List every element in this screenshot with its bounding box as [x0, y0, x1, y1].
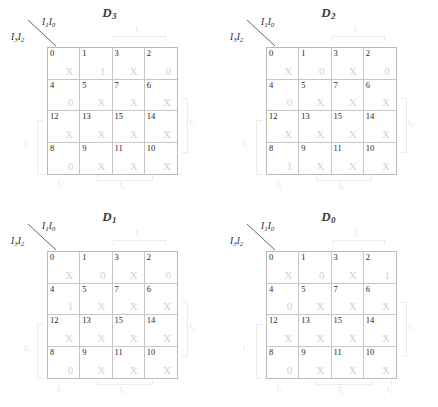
cell-value: X — [382, 96, 390, 108]
cell-value: X — [130, 300, 138, 312]
kmap-cell[interactable]: 80 — [48, 143, 80, 175]
kmap-cell[interactable]: 80 — [267, 347, 299, 379]
kmap-cell[interactable]: 13X — [80, 111, 112, 143]
cell-value: 0 — [68, 96, 74, 108]
kmap-cell[interactable]: 3X — [113, 252, 145, 284]
kmap-cell[interactable]: 10X — [145, 143, 177, 175]
kmap-cell[interactable]: 5X — [80, 284, 112, 316]
kmap-cell[interactable]: 21 — [364, 252, 396, 284]
group-bracket-bottom-right: I₁ — [381, 378, 405, 398]
cell-value: X — [317, 128, 325, 140]
kmap-cell[interactable]: 14X — [364, 111, 396, 143]
kmap-cell[interactable]: 40 — [267, 80, 299, 112]
kmap-cell[interactable]: 5X — [80, 80, 112, 112]
kmap-cell[interactable]: 11X — [113, 143, 145, 175]
cell-index: 3 — [334, 48, 338, 58]
cell-value: X — [382, 128, 390, 140]
kmap-cell[interactable]: 9X — [80, 143, 112, 175]
kmap-cell[interactable]: 10 — [299, 252, 331, 284]
axis-label-top: I1I0 — [42, 221, 55, 233]
cell-index: 4 — [50, 80, 54, 90]
kmap-cell[interactable]: 11 — [80, 48, 112, 80]
kmap-cell[interactable]: 12X — [48, 315, 80, 347]
karnaugh-map-d3: D3I1I0I3I2I₁I₃I₃I₀I₀0X113X20405X7X6X12X1… — [0, 0, 219, 203]
cell-value: 0 — [287, 300, 293, 312]
group-label-bottom: I₀ — [338, 385, 343, 394]
cell-value: X — [317, 332, 325, 344]
kmap-cell[interactable]: 5X — [299, 284, 331, 316]
kmap-cell[interactable]: 14X — [364, 315, 396, 347]
group-bracket-bottom: I₀ — [97, 174, 157, 194]
kmap-cell[interactable]: 7X — [113, 284, 145, 316]
cell-index: 4 — [50, 284, 54, 294]
cell-index: 14 — [366, 315, 375, 325]
cell-index: 9 — [301, 143, 305, 153]
group-label-bottom: I₀ — [338, 181, 343, 190]
cell-value: 1 — [287, 160, 293, 172]
kmap-cell[interactable]: 9X — [299, 347, 331, 379]
kmap-cell[interactable]: 20 — [145, 252, 177, 284]
kmap-cell[interactable]: 6X — [145, 80, 177, 112]
kmap-cell[interactable]: 9X — [80, 347, 112, 379]
cell-value: 0 — [319, 65, 325, 77]
kmap-cell[interactable]: 6X — [364, 80, 396, 112]
kmap-cell[interactable]: 10X — [364, 347, 396, 379]
kmap-cell[interactable]: 3X — [113, 48, 145, 80]
kmap-cell[interactable]: 81 — [267, 143, 299, 175]
cell-value: 0 — [68, 364, 74, 376]
axis-label-top: I1I0 — [42, 17, 55, 29]
kmap-cell[interactable]: 10X — [145, 347, 177, 379]
kmap-cell[interactable]: 15X — [113, 111, 145, 143]
kmap-cell[interactable]: 11X — [332, 143, 364, 175]
kmap-cell[interactable]: 11X — [332, 347, 364, 379]
axis-label-bottom: I3I2 — [230, 32, 243, 44]
kmap-cell[interactable]: 15X — [332, 315, 364, 347]
kmap-cell[interactable]: 0X — [48, 48, 80, 80]
kmap-cell[interactable]: 7X — [113, 80, 145, 112]
kmap-cell[interactable]: 12X — [48, 111, 80, 143]
kmap-cell[interactable]: 12X — [267, 315, 299, 347]
kmap-cell[interactable]: 10 — [80, 252, 112, 284]
cell-index: 10 — [366, 143, 375, 153]
cell-index: 14 — [147, 315, 156, 325]
kmap-cell[interactable]: 13X — [299, 315, 331, 347]
group-label-left: I₃ — [243, 344, 248, 353]
kmap-cell[interactable]: 5X — [299, 80, 331, 112]
kmap-cell[interactable]: 6X — [145, 284, 177, 316]
kmap-cell[interactable]: 14X — [145, 111, 177, 143]
cell-index: 10 — [147, 143, 156, 153]
kmap-cell[interactable]: 20 — [145, 48, 177, 80]
kmap-cell[interactable]: 41 — [48, 284, 80, 316]
cell-index: 7 — [334, 80, 338, 90]
kmap-cell[interactable]: 0X — [48, 252, 80, 284]
kmap-cell[interactable]: 20 — [364, 48, 396, 80]
kmap-cell[interactable]: 15X — [332, 111, 364, 143]
kmap-cell[interactable]: 13X — [80, 315, 112, 347]
kmap-cell[interactable]: 12X — [267, 111, 299, 143]
cell-index: 6 — [366, 284, 370, 294]
kmap-cell[interactable]: 10X — [364, 143, 396, 175]
cell-value: 1 — [100, 65, 106, 77]
kmap-cell[interactable]: 15X — [113, 315, 145, 347]
kmap-cell[interactable]: 13X — [299, 111, 331, 143]
cell-value: X — [65, 269, 73, 281]
kmap-cell[interactable]: 11X — [113, 347, 145, 379]
kmap-cell[interactable]: 9X — [299, 143, 331, 175]
kmap-cell[interactable]: 40 — [267, 284, 299, 316]
kmap-cell[interactable]: 80 — [48, 347, 80, 379]
cell-value: X — [98, 128, 106, 140]
kmap-cell[interactable]: 3X — [332, 252, 364, 284]
cell-value: X — [382, 160, 390, 172]
kmap-cell[interactable]: 6X — [364, 284, 396, 316]
kmap-cell[interactable]: 40 — [48, 80, 80, 112]
kmap-cell[interactable]: 3X — [332, 48, 364, 80]
kmap-cell[interactable]: 0X — [267, 252, 299, 284]
group-label-left: I₃ — [243, 140, 248, 149]
kmap-cell[interactable]: 0X — [267, 48, 299, 80]
kmap-cell[interactable]: 14X — [145, 315, 177, 347]
group-label-stray: I₀ — [276, 384, 281, 393]
cell-index: 14 — [366, 111, 375, 121]
kmap-cell[interactable]: 7X — [332, 284, 364, 316]
kmap-cell[interactable]: 7X — [332, 80, 364, 112]
kmap-cell[interactable]: 10 — [299, 48, 331, 80]
